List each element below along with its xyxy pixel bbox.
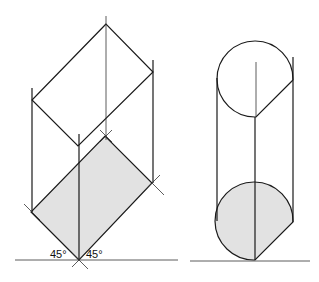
construction-tick bbox=[152, 183, 164, 195]
shaded-base-square bbox=[31, 136, 152, 260]
top-square bbox=[32, 24, 153, 146]
angle-label-left: 45° bbox=[50, 248, 67, 260]
shaded-base-circle bbox=[215, 182, 293, 260]
diagram-canvas: 45° 45° bbox=[0, 0, 319, 282]
angle-label-right: 45° bbox=[86, 248, 103, 260]
cylinder-drawing bbox=[190, 41, 310, 261]
top-circle bbox=[217, 41, 293, 117]
prism-drawing: 45° 45° bbox=[15, 16, 178, 269]
